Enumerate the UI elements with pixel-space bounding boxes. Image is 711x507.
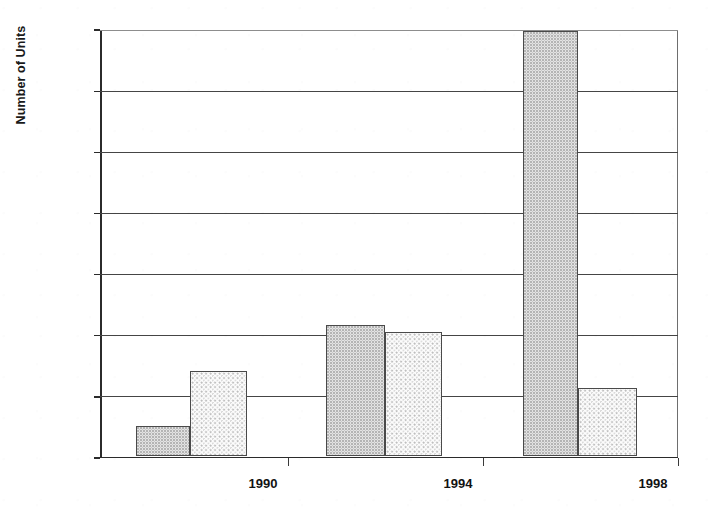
- x-tick-1990: [288, 458, 289, 466]
- bar-1990-series-2: [190, 371, 247, 457]
- y-tick-600: [94, 91, 100, 92]
- gridline-500: [100, 152, 678, 153]
- y-axis-line: [100, 30, 102, 458]
- plot-right-border: [677, 30, 679, 458]
- y-tick-200: [94, 335, 100, 336]
- y-tick-100: [94, 396, 100, 397]
- plot-area: 0100200300400500600700 199019941998: [100, 30, 678, 458]
- gridline-600: [100, 91, 678, 92]
- gridline-400: [100, 213, 678, 214]
- x-tick-1994: [483, 458, 484, 466]
- y-axis-title: Number of Units: [14, 0, 36, 160]
- y-tick-700: [94, 29, 100, 30]
- bar-1994-series-2: [385, 332, 442, 456]
- x-axis-label-1990: 1990: [223, 476, 303, 491]
- y-tick-0: [94, 457, 100, 458]
- bar-1998-series-1: [523, 31, 578, 456]
- y-tick-500: [94, 152, 100, 153]
- gridline-300: [100, 274, 678, 275]
- y-tick-300: [94, 274, 100, 275]
- bar-1990-series-1: [136, 426, 190, 457]
- x-tick-1998: [678, 458, 679, 466]
- x-axis-label-1998: 1998: [613, 476, 693, 491]
- bar-1994-series-1: [326, 325, 385, 456]
- x-axis-line: [100, 457, 678, 459]
- bar-1998-series-2: [578, 388, 637, 456]
- bar-chart: Number of Units 0100200300400500600700 1…: [0, 0, 711, 507]
- gridline-700: [100, 30, 678, 31]
- x-axis-label-1994: 1994: [418, 476, 498, 491]
- y-tick-400: [94, 213, 100, 214]
